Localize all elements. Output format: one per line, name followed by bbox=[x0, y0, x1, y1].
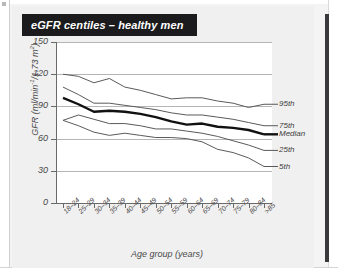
page-right-edge bbox=[328, 0, 338, 274]
plot-area bbox=[57, 42, 272, 203]
y-tick-label: 30 bbox=[12, 165, 48, 175]
page-top-edge bbox=[0, 0, 338, 4]
series-label-median: Median bbox=[279, 129, 305, 138]
corner-marker bbox=[2, 2, 6, 6]
y-tick-label: 0 bbox=[12, 197, 48, 207]
figure-container: eGFR centiles – healthy men 030609012015… bbox=[12, 6, 314, 268]
page-bottom-edge bbox=[0, 267, 338, 274]
y-tick-mark bbox=[51, 106, 56, 107]
page-left-edge bbox=[0, 0, 10, 274]
page-edge-bar bbox=[325, 14, 329, 262]
series-label-5th: 5th bbox=[279, 162, 290, 171]
y-axis-label: GFR (ml/min-1/1.73 m2) bbox=[29, 30, 40, 150]
y-tick-mark bbox=[51, 171, 56, 172]
y-tick-mark bbox=[51, 74, 56, 75]
x-axis-label: Age group (years) bbox=[72, 249, 262, 259]
series-label-25th: 25th bbox=[279, 145, 295, 154]
gridline bbox=[57, 171, 272, 172]
gridline bbox=[57, 74, 272, 75]
page-canvas: eGFR centiles – healthy men 030609012015… bbox=[0, 0, 338, 274]
series-label-95th: 95th bbox=[279, 99, 295, 108]
gridline bbox=[57, 139, 272, 140]
y-tick-mark bbox=[51, 203, 56, 204]
y-tick-mark bbox=[51, 42, 56, 43]
y-axis-line bbox=[56, 42, 57, 204]
gridline bbox=[57, 106, 272, 107]
y-tick-mark bbox=[51, 139, 56, 140]
plot-wrapper: 0306090120150 18–2425–2930–3435–3940–444… bbox=[12, 6, 314, 268]
gridline bbox=[57, 42, 272, 43]
